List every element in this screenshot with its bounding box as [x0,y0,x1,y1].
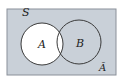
complement-a-label: Ā [98,62,106,73]
venn-diagram: S A B Ā [0,0,120,79]
universe-label: S [22,6,30,19]
set-a-label: A [37,38,46,51]
set-b-label: B [75,37,84,50]
